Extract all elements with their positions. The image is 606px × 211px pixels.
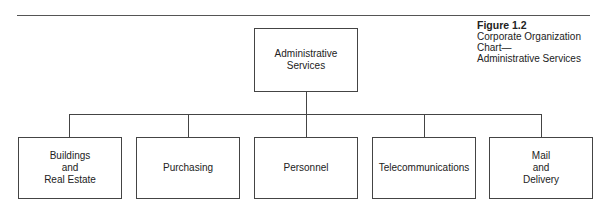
node-label: Mail and Delivery — [523, 150, 559, 186]
node-administrative-services: Administrative Services — [254, 28, 358, 92]
connector-stem-buildings — [69, 114, 70, 137]
connector-stem-mail — [541, 114, 542, 137]
connector-stem-telecommunications — [424, 114, 425, 137]
node-buildings-real-estate: Buildings and Real Estate — [18, 137, 122, 199]
node-purchasing: Purchasing — [136, 137, 240, 199]
node-personnel: Personnel — [254, 137, 358, 199]
connector-root-stem — [306, 92, 307, 114]
figure-title: Corporate Organization Chart— Administra… — [477, 31, 606, 64]
node-label: Purchasing — [163, 162, 213, 174]
top-rule — [17, 15, 590, 16]
node-label: Administrative Services — [275, 48, 338, 72]
figure-number: Figure 1.2 — [477, 20, 606, 31]
node-telecommunications: Telecommunications — [372, 137, 476, 199]
connector-stem-purchasing — [188, 114, 189, 137]
connector-horizontal — [69, 114, 541, 115]
figure-caption: Figure 1.2 Corporate Organization Chart—… — [477, 20, 606, 64]
node-label: Buildings and Real Estate — [44, 150, 96, 186]
node-label: Personnel — [283, 162, 328, 174]
node-label: Telecommunications — [379, 162, 470, 174]
node-mail-delivery: Mail and Delivery — [489, 137, 593, 199]
connector-stem-personnel — [306, 114, 307, 137]
